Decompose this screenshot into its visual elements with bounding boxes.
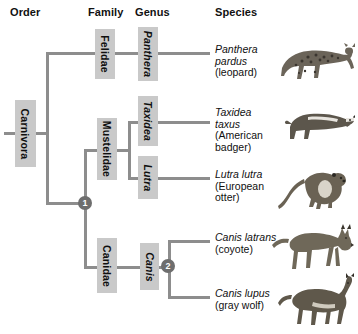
branch-taxidea-to-badger [155,121,210,124]
branch-to-gray-wolf [168,296,210,299]
species-scientific-name: Lutra lutra [215,169,283,181]
branch-carnivora-spine [46,53,49,205]
branch-panthera-to-leopard [155,52,210,55]
branch-to-coyote [168,240,210,243]
taxon-box-lutra[interactable]: Lutra [138,156,158,199]
species-common-name: (leopard) [215,67,277,79]
species-label-canis-lupus: Canis lupus (gray wolf) [215,288,277,311]
node-marker-2-label: 2 [165,262,170,271]
node-marker-1-label: 1 [82,199,87,208]
species-scientific-name: Canis lupus [215,288,277,300]
phylogenetic-tree-diagram: Order Family Genus Species Carnivora Fel… [0,0,358,334]
branch-mustelidae-bracket [128,121,131,178]
taxon-label-felidae: Felidae [99,35,111,73]
species-common-name: (American badger) [215,130,277,153]
column-header-family: Family [88,6,123,18]
species-illustration-coyote [268,222,356,278]
taxon-box-canis[interactable]: Canis [140,243,159,290]
taxon-label-taxidea: Taxidea [142,101,154,141]
column-header-order: Order [10,6,40,18]
branch-canidae-to-canis [113,266,143,269]
species-scientific-name: Panthera pardus [215,44,277,67]
column-header-species: Species [215,6,257,18]
species-common-name: (gray wolf) [215,300,277,312]
taxon-box-panthera[interactable]: Panthera [138,27,158,81]
taxon-box-mustelidae[interactable]: Mustelidae [97,118,117,180]
taxon-label-carnivora: Carnivora [20,108,32,159]
branch-lutra-to-otter [155,177,210,180]
taxon-label-canis: Canis [144,252,156,282]
column-header-genus: Genus [135,6,170,18]
species-scientific-name: Taxidea taxus [215,107,277,130]
taxon-box-taxidea[interactable]: Taxidea [138,96,158,146]
species-label-panthera-pardus: Panthera pardus (leopard) [215,44,277,79]
taxon-box-carnivora[interactable]: Carnivora [15,100,36,167]
taxon-label-lutra: Lutra [142,164,154,191]
taxon-box-canidae[interactable]: Canidae [97,238,117,293]
taxon-label-canidae: Canidae [101,244,113,286]
taxon-box-felidae[interactable]: Felidae [95,29,115,79]
taxon-label-panthera: Panthera [142,31,154,78]
species-illustration-american-badger [284,105,356,145]
species-label-lutra-lutra: Lutra lutra (European otter) [215,169,283,204]
species-illustration-european-otter [275,165,355,213]
species-common-name: (European otter) [215,181,283,204]
node-marker-1[interactable]: 1 [78,196,92,210]
node-marker-2[interactable]: 2 [161,259,175,273]
species-illustration-gray-wolf [277,272,357,332]
taxon-label-mustelidae: Mustelidae [101,121,113,177]
species-illustration-leopard [274,38,356,84]
species-label-taxidea-taxus: Taxidea taxus (American badger) [215,107,277,153]
